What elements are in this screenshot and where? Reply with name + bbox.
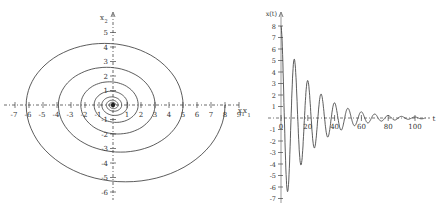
x-tick-label: 4	[272, 69, 276, 77]
t-tick-label: 60	[357, 123, 366, 131]
x-tick-label: 5	[272, 57, 276, 65]
x-tick-label: -4	[270, 161, 276, 169]
x-tick-label: 7	[272, 34, 276, 42]
x1-subscript: 1	[247, 112, 250, 118]
t-tick-label: 20	[303, 123, 312, 131]
x-tick-label: -7	[270, 195, 276, 203]
x-tick-label: 3	[272, 80, 276, 88]
x-tick-label: 6	[272, 46, 276, 54]
figure: -7-6-5-4-3-2-1123456789-6-5-4-3-2-112345…	[0, 0, 446, 217]
x-tick-label: -3	[270, 149, 276, 157]
x-tick-label: -6	[270, 184, 276, 192]
t-axis-label: t	[433, 115, 436, 123]
x-t-curve	[281, 26, 426, 192]
x-tick-label: 8	[272, 23, 276, 31]
x-tick-label: -1	[270, 126, 276, 134]
x-tick-label: -5	[270, 172, 276, 180]
x-tick-label: 1	[272, 103, 276, 111]
x-tick-label: -2	[270, 138, 276, 146]
x-axis-label: x(t)	[266, 10, 278, 18]
x-tick-label: 2	[272, 92, 276, 100]
t-tick-label: 40	[330, 123, 339, 131]
t-tick-label: 80	[384, 123, 393, 131]
time-response-plot: 020406080100-7-6-5-4-3-2-112345678x(t)tx…	[0, 0, 446, 217]
t-tick-label: 100	[408, 123, 421, 131]
